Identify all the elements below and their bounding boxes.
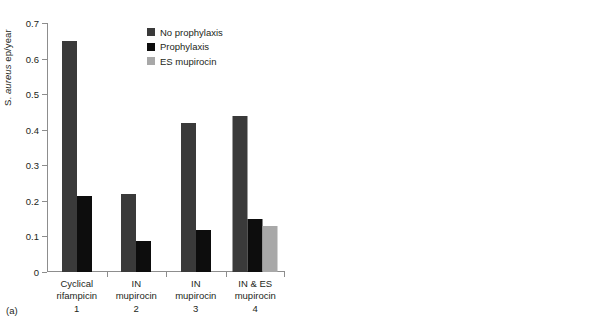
x-axis-label-line: mupirocin <box>226 290 286 302</box>
x-axis-label: Cyclicalrifampicin1 <box>47 278 107 315</box>
y-tick-label: 0.7 <box>26 18 39 29</box>
x-axis-label-line: IN <box>107 278 167 290</box>
y-tick-label: 0.4 <box>26 124 39 135</box>
x-tick <box>226 272 227 277</box>
bar <box>181 123 196 272</box>
bar <box>233 116 248 273</box>
y-tick-label: 0.1 <box>26 231 39 242</box>
x-axis-label-line: IN & ES <box>226 278 286 290</box>
x-axis-label-line: 2 <box>107 303 167 315</box>
y-tick-label: 0 <box>34 267 39 278</box>
bar <box>62 41 77 272</box>
x-axis-label-line: 1 <box>47 303 107 315</box>
x-axis-label-line: 4 <box>226 303 286 315</box>
bar <box>77 196 92 272</box>
x-tick <box>284 272 285 277</box>
x-tick <box>166 272 167 277</box>
y-tick-label: 0.6 <box>26 53 39 64</box>
x-axis-label-line: Cyclical <box>47 278 107 290</box>
bar <box>248 219 263 272</box>
x-axis-label-line: mupirocin <box>107 290 167 302</box>
bar-group <box>47 23 107 272</box>
x-axis-label-line: rifampicin <box>47 290 107 302</box>
legend-label: No prophylaxis <box>160 27 223 38</box>
legend-swatch-icon <box>147 43 155 51</box>
x-axis-label-line: 3 <box>166 303 226 315</box>
legend-swatch-icon <box>147 57 155 65</box>
y-axis-title: S. aureus ep/year <box>2 0 13 106</box>
x-axis-label-line: IN <box>166 278 226 290</box>
bar <box>196 230 211 272</box>
x-axis-label: IN & ESmupirocin4 <box>226 278 286 315</box>
legend-item: Prophylaxis <box>147 41 223 53</box>
legend-swatch-icon <box>147 28 155 36</box>
bar-set <box>233 23 278 272</box>
legend-item: ES mupirocin <box>147 55 223 67</box>
y-tick-label: 0.2 <box>26 195 39 206</box>
bar-group <box>226 23 286 272</box>
legend-label: Prophylaxis <box>160 41 209 52</box>
legend-label: ES mupirocin <box>160 56 217 67</box>
panel-a: S. aureus ep/year 00.10.20.30.40.50.60.7… <box>0 0 296 331</box>
bar-set <box>62 23 92 272</box>
x-axis-label: INmupirocin2 <box>107 278 167 315</box>
legend-item: No prophylaxis <box>147 26 223 38</box>
x-axis-labels-a: Cyclicalrifampicin1INmupirocin2INmupiroc… <box>47 278 285 315</box>
x-axis-label: INmupirocin3 <box>166 278 226 315</box>
x-tick <box>107 272 108 277</box>
y-tick-label: 0.3 <box>26 160 39 171</box>
panel-b: 00.050.10.150.20.25 INmupirocin5INmupiro… <box>296 0 591 331</box>
panel-tag-a: (a) <box>6 305 18 316</box>
bar <box>136 241 151 272</box>
bar <box>263 226 278 272</box>
y-tick-label: 0.5 <box>26 89 39 100</box>
bar <box>121 194 136 272</box>
legend-a: No prophylaxisProphylaxisES mupirocin <box>147 26 223 70</box>
y-tick <box>42 272 47 273</box>
x-axis-label-line: mupirocin <box>166 290 226 302</box>
figure-container: S. aureus ep/year 00.10.20.30.40.50.60.7… <box>0 0 591 331</box>
y-axis-title-text: S. aureus ep/year <box>2 29 13 106</box>
